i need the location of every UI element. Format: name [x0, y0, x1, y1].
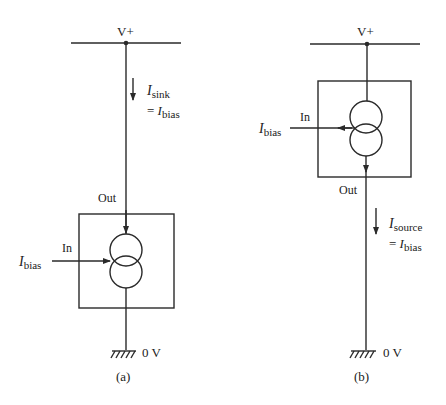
panel-a-current-sink: V+ Isink = Ibias Out In Ibias 0 V (a): [18, 24, 181, 384]
bias-current-label: Ibias: [18, 254, 41, 271]
ground-label: 0 V: [383, 345, 403, 360]
out-label: Out: [339, 183, 358, 197]
current-mirror-box: [318, 81, 411, 177]
caption: (a): [116, 369, 130, 384]
ground-symbol: [350, 351, 376, 358]
source-current-label: Isource: [388, 216, 422, 233]
in-label: In: [300, 110, 310, 124]
ground-label: 0 V: [142, 345, 162, 360]
in-label: In: [62, 241, 72, 255]
supply-label: V+: [357, 24, 374, 39]
bias-current-label: Ibias: [258, 121, 281, 138]
source-current-equals: = Ibias: [389, 236, 422, 253]
panel-b-current-source: V+ In Ibias Out Isource = Ibias 0 V (b): [258, 24, 422, 384]
sink-current-label: Isink: [146, 83, 171, 100]
supply-label: V+: [117, 24, 134, 39]
sink-current-equals: = Ibias: [147, 103, 180, 120]
mirror-circle-bottom: [110, 256, 142, 288]
out-label: Out: [98, 191, 117, 205]
mirror-circle-bottom: [350, 124, 382, 156]
diagram-canvas: V+ Isink = Ibias Out In Ibias 0 V (a) V+: [0, 0, 446, 405]
ground-symbol: [111, 351, 136, 358]
caption: (b): [354, 369, 369, 384]
